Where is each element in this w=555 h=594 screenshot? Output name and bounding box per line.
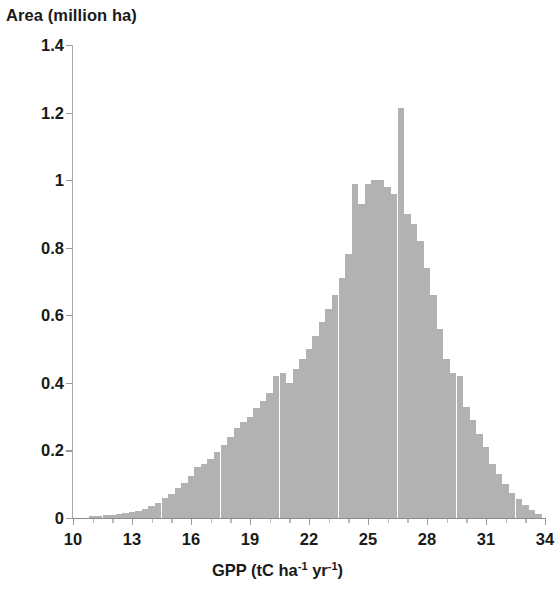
y-axis-tick-label: 1.4 xyxy=(0,36,64,55)
histogram-bar xyxy=(273,376,280,518)
histogram-bar xyxy=(450,373,457,518)
x-axis-tick-label: 28 xyxy=(405,530,449,549)
x-axis-minor-tick-mark xyxy=(112,519,113,523)
x-axis-tick-label: 19 xyxy=(228,530,272,549)
x-axis-minor-tick-mark xyxy=(388,519,389,523)
x-axis-minor-tick-mark xyxy=(93,519,94,523)
histogram-bar xyxy=(253,408,260,518)
y-axis-tick-mark xyxy=(66,518,72,519)
x-axis-minor-tick-mark xyxy=(447,519,448,523)
x-axis-minor-tick-mark xyxy=(466,519,467,523)
x-axis-tick-label: 22 xyxy=(287,530,331,549)
x-axis-tick-mark xyxy=(73,519,74,525)
x-axis-tick-label: 16 xyxy=(169,530,213,549)
histogram-bar xyxy=(194,467,201,518)
histogram-bar xyxy=(411,224,418,518)
x-axis-minor-tick-mark xyxy=(407,519,408,523)
y-axis-tick-label: 1 xyxy=(0,171,64,190)
x-axis-tick-label: 31 xyxy=(464,530,508,549)
histogram-bar xyxy=(214,452,221,518)
x-axis-tick-label: 13 xyxy=(110,530,154,549)
x-axis-minor-tick-mark xyxy=(348,519,349,523)
y-axis-tick-label: 1.2 xyxy=(0,103,64,122)
x-axis-tick-mark xyxy=(191,519,192,525)
x-axis-tick-label: 34 xyxy=(523,530,555,549)
x-axis-title-suffix: ) xyxy=(338,561,344,579)
y-axis-tick-mark xyxy=(66,383,72,384)
histogram-bar xyxy=(509,493,516,518)
histogram-bar xyxy=(135,511,142,518)
x-axis-title-exponent-1: -1 xyxy=(298,560,308,572)
x-axis-tick-mark xyxy=(368,519,369,525)
x-axis-tick-mark xyxy=(427,519,428,525)
y-axis-title: Area (million ha) xyxy=(6,6,137,25)
x-axis-minor-tick-mark xyxy=(329,519,330,523)
x-axis-tick-mark xyxy=(132,519,133,525)
x-axis-minor-tick-mark xyxy=(270,519,271,523)
y-axis-tick-label: 0 xyxy=(0,509,64,528)
histogram-bar xyxy=(116,514,123,518)
x-axis-minor-tick-mark xyxy=(211,519,212,523)
histogram-bar xyxy=(535,514,542,518)
x-axis-minor-tick-mark xyxy=(506,519,507,523)
histogram-bar xyxy=(529,510,536,518)
histogram-bar xyxy=(430,295,437,518)
histogram-bar xyxy=(470,420,477,518)
histogram-bar xyxy=(371,180,378,518)
histogram-bar xyxy=(293,369,300,518)
x-axis-title: GPP (tC ha-1 yr-1) xyxy=(0,561,555,580)
histogram-bar xyxy=(312,336,319,518)
histogram-bar xyxy=(332,295,339,518)
y-axis-tick-label: 0.2 xyxy=(0,441,64,460)
x-axis-minor-tick-mark xyxy=(152,519,153,523)
histogram-bar xyxy=(391,194,398,518)
histogram-bar xyxy=(175,488,182,518)
y-axis-tick-mark xyxy=(66,315,72,316)
x-axis-tick-mark xyxy=(250,519,251,525)
x-axis-tick-label: 10 xyxy=(51,530,95,549)
y-axis-tick-label: 0.6 xyxy=(0,306,64,325)
x-axis-title-middle: yr xyxy=(308,561,328,579)
x-axis-minor-tick-mark xyxy=(171,519,172,523)
x-axis-tick-label: 25 xyxy=(346,530,390,549)
y-axis-tick-mark xyxy=(66,450,72,451)
y-axis-tick-mark xyxy=(66,248,72,249)
y-axis-tick-label: 0.8 xyxy=(0,238,64,257)
y-axis-tick-mark xyxy=(66,45,72,46)
y-axis-tick-mark xyxy=(66,180,72,181)
x-axis-title-prefix: GPP (tC ha xyxy=(212,561,298,579)
plot-area xyxy=(73,45,545,518)
x-axis-tick-mark xyxy=(545,519,546,525)
x-axis-title-exponent-2: -1 xyxy=(328,560,338,572)
histogram-bar xyxy=(96,516,103,518)
histogram-bar xyxy=(234,428,241,518)
x-axis-tick-mark xyxy=(309,519,310,525)
histogram-bar xyxy=(155,503,162,518)
histogram-bar xyxy=(489,464,496,518)
x-axis-minor-tick-mark xyxy=(289,519,290,523)
x-axis-minor-tick-mark xyxy=(230,519,231,523)
x-axis-minor-tick-mark xyxy=(525,519,526,523)
histogram-bar xyxy=(352,184,359,518)
x-axis-tick-mark xyxy=(486,519,487,525)
histogram-figure: Area (million ha) 00.20.40.60.811.21.4 1… xyxy=(0,0,555,594)
y-axis-tick-mark xyxy=(66,113,72,114)
y-axis-tick-label: 0.4 xyxy=(0,373,64,392)
